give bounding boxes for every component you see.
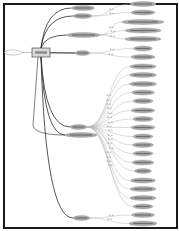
leaf-label bbox=[135, 92, 151, 93]
leaf-label bbox=[136, 144, 151, 145]
edge-label: 1..n bbox=[107, 116, 112, 119]
edge-label: 1..n bbox=[109, 53, 114, 56]
edge-strong bbox=[41, 16, 73, 48]
graph-canvas: 1..n1..n1..n1..n1..n1..n1..n1..n1..n1..n… bbox=[0, 0, 179, 231]
edge-label: 1..n bbox=[106, 103, 111, 106]
edge-label: 1..n bbox=[107, 107, 112, 110]
hub-label bbox=[35, 51, 47, 53]
edge-label: 1..n bbox=[109, 214, 114, 217]
edge-label: 1..n bbox=[108, 164, 113, 167]
edge-label: 1..n bbox=[108, 138, 113, 141]
edge-label: 1..n bbox=[109, 26, 114, 29]
node-label bbox=[75, 7, 91, 8]
leaf-label bbox=[136, 206, 150, 207]
edge-label: 1..n bbox=[107, 151, 112, 154]
leaf-label bbox=[135, 12, 152, 13]
edge-label: 1..n bbox=[111, 35, 116, 38]
edge-label: 1..n bbox=[108, 121, 113, 124]
leaf-label bbox=[134, 66, 152, 67]
source-node[interactable] bbox=[5, 50, 22, 55]
node-label bbox=[72, 34, 95, 35]
node-label bbox=[76, 15, 89, 16]
leaf-label bbox=[136, 100, 150, 101]
leaf-label bbox=[135, 127, 152, 128]
leaf-label bbox=[134, 83, 153, 84]
edge-label: 1..n bbox=[110, 12, 115, 15]
edge-label: 1..n bbox=[109, 147, 114, 150]
node-label bbox=[76, 217, 88, 218]
leaf-label bbox=[137, 170, 149, 171]
leaf-label bbox=[136, 153, 150, 154]
leaf-label bbox=[128, 21, 157, 22]
leaf-label bbox=[130, 38, 155, 39]
leaf-label bbox=[136, 118, 150, 119]
edge-strong bbox=[41, 8, 72, 48]
leaf-label bbox=[130, 30, 155, 31]
node-label bbox=[77, 52, 88, 53]
edge-label: 1..n bbox=[111, 30, 116, 33]
leaf-label bbox=[134, 74, 153, 75]
edge-label: 1..n bbox=[108, 129, 113, 132]
edge-label: 1..n bbox=[109, 8, 114, 11]
leaf-label bbox=[134, 197, 152, 198]
edge-label: 1..n bbox=[110, 48, 115, 51]
edge-strong bbox=[41, 57, 70, 127]
leaf-label bbox=[135, 56, 152, 57]
edge-label: 1..n bbox=[108, 134, 113, 137]
edge-label: 1..n bbox=[108, 112, 113, 115]
edge-strong bbox=[41, 35, 67, 48]
leaf-label bbox=[135, 162, 150, 163]
leaf-label bbox=[134, 3, 152, 4]
node-label bbox=[70, 134, 92, 135]
leaf-label bbox=[134, 188, 152, 189]
leaf-label bbox=[135, 214, 151, 215]
leaf-label bbox=[136, 48, 149, 49]
edge-label: 1..n bbox=[108, 218, 113, 221]
leaf-label bbox=[135, 110, 152, 111]
leaf-label bbox=[133, 223, 153, 224]
node-label bbox=[73, 126, 85, 127]
edge-label: 1..n bbox=[107, 125, 112, 128]
leaf-label bbox=[136, 136, 150, 137]
leaf-label bbox=[134, 180, 152, 181]
edge-strong bbox=[41, 57, 73, 218]
